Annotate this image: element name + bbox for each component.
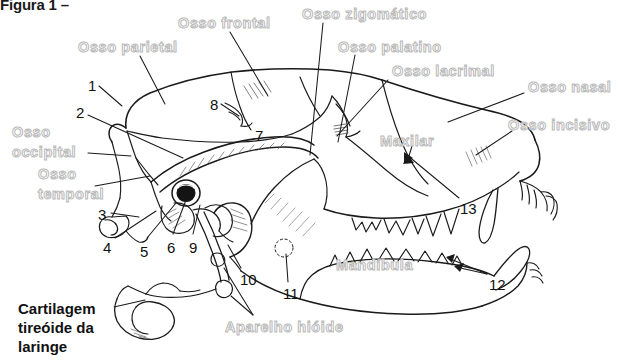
callout-number-7: 7 (255, 128, 263, 143)
callout-number-2: 2 (76, 105, 84, 120)
label-osso-occipital-line1: Osso (12, 122, 76, 142)
label-osso-incisivo: Osso incisivo (508, 116, 610, 134)
figure-title: Figura 1 – (0, 0, 69, 13)
cartilagem-line3: laringe (18, 337, 96, 356)
callout-number-5: 5 (140, 244, 148, 259)
callout-number-6: 6 (167, 240, 175, 255)
label-cartilagem-tireoide-da-laringe: Cartilagem tireóide da laringe (18, 299, 96, 356)
cartilagem-line1: Cartilagem (18, 299, 96, 318)
label-osso-lacrimal: Osso lacrimal (392, 62, 495, 80)
label-osso-temporal-line1: Osso (38, 164, 104, 184)
label-osso-frontal: Osso frontal (178, 14, 271, 32)
callout-number-3: 3 (98, 207, 106, 222)
callout-number-10: 10 (240, 272, 257, 287)
callout-number-8: 8 (210, 97, 218, 112)
callout-number-4: 4 (103, 240, 111, 255)
callout-number-9: 9 (189, 240, 197, 255)
label-maxilar: Maxilar (380, 132, 434, 150)
label-osso-temporal-line2: temporal (38, 184, 104, 204)
label-osso-nasal: Osso nasal (528, 78, 611, 96)
label-mandibula: Mandíbula (336, 256, 413, 274)
label-osso-occipital-line2: occipital (12, 142, 76, 162)
callout-number-11: 11 (283, 286, 299, 301)
label-osso-zigomatico: Osso zigomático (302, 5, 427, 23)
label-aparelho-hioide: Aparelho hióide (225, 318, 344, 336)
label-osso-parietal: Osso parietal (78, 38, 178, 56)
figure-container: Figura 1 – Osso parietal Osso frontal Os… (0, 0, 622, 363)
label-osso-temporal: Osso temporal (38, 164, 104, 204)
cartilagem-line2: tireóide da (18, 318, 96, 337)
callout-number-12: 12 (489, 277, 506, 292)
callout-number-1: 1 (88, 78, 96, 93)
label-osso-occipital: Osso occipital (12, 122, 76, 162)
callout-number-13: 13 (460, 201, 477, 216)
label-osso-palatino: Osso palatino (338, 38, 442, 56)
